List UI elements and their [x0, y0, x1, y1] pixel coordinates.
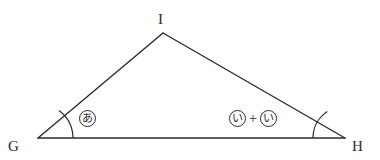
- angle-G-expression: あ: [79, 110, 96, 127]
- plus-operator: +: [249, 112, 257, 126]
- vertex-label-I: I: [158, 12, 163, 27]
- triangle-figure: [0, 0, 380, 160]
- diagram-canvas: G H I あ い + い: [0, 0, 380, 160]
- angle-H-expression: い + い: [229, 110, 277, 127]
- circled-i-symbol-second: い: [260, 110, 277, 127]
- circled-i-symbol-first: い: [229, 110, 246, 127]
- side-GI: [38, 33, 163, 138]
- vertex-label-G: G: [8, 139, 19, 154]
- circled-a-symbol: あ: [79, 110, 96, 127]
- vertex-label-H: H: [352, 139, 363, 154]
- angle-arc-H: [313, 111, 327, 138]
